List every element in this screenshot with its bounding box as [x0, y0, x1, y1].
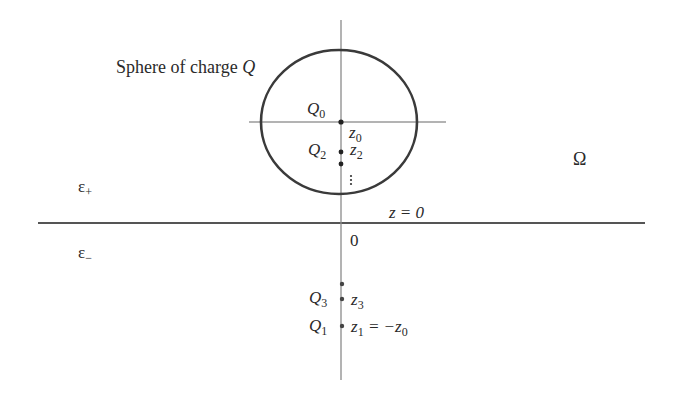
charge-subscript: 1 [321, 324, 327, 338]
charge-dot-q2 [339, 150, 344, 155]
diagram-graphics [0, 0, 677, 396]
position-subscript: 3 [358, 298, 364, 312]
sphere-title-var: Q [242, 57, 255, 77]
domain-omega-label: Ω [573, 150, 586, 168]
charge-label-q1: Q1 [309, 317, 327, 337]
position-label-z2: z2 [350, 141, 363, 161]
charge-dot-q1 [340, 324, 344, 328]
ellipsis-dot [350, 179, 352, 181]
charge-name: Q [309, 316, 321, 335]
charge-subscript: 0 [319, 107, 325, 121]
charge-name: Q [309, 288, 321, 307]
position-name: z [351, 317, 358, 336]
position-label-z3: z3 [351, 291, 364, 311]
charge-subscript: 2 [320, 148, 326, 162]
charge-dot-q4 [339, 162, 344, 167]
ellipsis-dot [350, 175, 352, 177]
sphere-title-label: Sphere of charge Q [116, 58, 255, 76]
interface-label: z = 0 [389, 204, 424, 221]
charge-dot-q3 [340, 297, 344, 301]
charge-label-q0: Q0 [307, 100, 325, 120]
charge-subscript: 3 [321, 296, 327, 310]
charge-dot-q0 [338, 119, 343, 124]
epsilon-plus-label: ε+ [78, 178, 92, 198]
ellipsis-dot [350, 183, 352, 185]
position-equation: = −z [364, 317, 402, 336]
position-name: z [350, 140, 357, 159]
origin-label: 0 [350, 232, 359, 249]
position-equation-subscript: 0 [402, 325, 408, 339]
position-name: z [351, 290, 358, 309]
position-label-z1: z1 = −z0 [351, 318, 408, 338]
epsilon-minus-subscript: − [85, 251, 92, 265]
charge-label-q2: Q2 [308, 141, 326, 161]
charge-label-q3: Q3 [309, 289, 327, 309]
sphere-title-text: Sphere of charge [116, 57, 238, 77]
diagram-canvas: Sphere of charge Q Ω ε+ ε− z = 0 0 Q0 z0… [0, 0, 677, 396]
charge-name: Q [308, 140, 320, 159]
epsilon-plus-subscript: + [85, 185, 92, 199]
charge-name: Q [307, 99, 319, 118]
position-subscript: 2 [357, 148, 363, 162]
epsilon-minus-label: ε− [78, 244, 92, 264]
charge-dot-q5 [340, 282, 344, 286]
